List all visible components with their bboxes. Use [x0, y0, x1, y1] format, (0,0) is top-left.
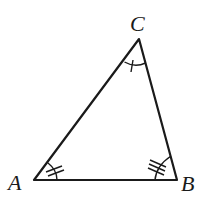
angle-a-mark	[46, 163, 64, 180]
angle-b-mark	[148, 156, 171, 180]
angle-c-mark	[125, 60, 146, 72]
angle-c-tick-1	[131, 60, 133, 72]
vertex-label-a: A	[6, 170, 22, 195]
vertex-label-b: B	[181, 171, 194, 196]
angle-c-arc	[125, 62, 146, 65]
angle-a-arc	[48, 163, 57, 180]
triangle-diagram: A B C	[0, 0, 200, 201]
triangle-abc	[34, 39, 177, 180]
vertex-label-c: C	[130, 11, 145, 36]
